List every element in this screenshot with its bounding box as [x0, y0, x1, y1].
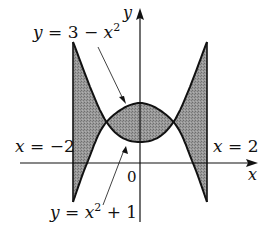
origin-label: 0 [127, 168, 137, 186]
leader-arrow-upper-icon [119, 96, 126, 104]
label-x-equals-neg2: x = −2 [15, 136, 75, 156]
label-x-equals-2: x = 2 [213, 136, 258, 156]
y-axis-label: y [122, 3, 133, 22]
label-upper-curve: y = 3 − x2 [32, 21, 120, 42]
area-between-curves-diagram: y = 3 − x2 y = x2 + 1 x = −2 x = 2 x y 0 [0, 0, 263, 225]
x-axis-label: x [248, 165, 257, 184]
label-lower-curve: y = x2 + 1 [49, 201, 137, 222]
leader-line-upper [98, 47, 124, 101]
leader-line-lower [103, 150, 124, 205]
